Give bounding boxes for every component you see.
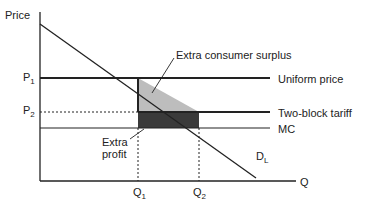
x-axis-label: Q bbox=[300, 176, 309, 188]
demand-curve bbox=[40, 24, 256, 178]
y-axis-label: Price bbox=[5, 9, 30, 21]
demand-label: DL bbox=[256, 150, 268, 164]
p1-label: P1 bbox=[23, 71, 35, 85]
extra-profit-label-line1: Extra bbox=[102, 136, 128, 148]
two-block-tariff-label: Two-block tariff bbox=[278, 107, 352, 119]
extra-consumer-surplus-label: Extra consumer surplus bbox=[176, 49, 292, 61]
uniform-price-label: Uniform price bbox=[278, 73, 343, 85]
p2-label: P2 bbox=[23, 104, 35, 118]
extra-profit-area bbox=[138, 112, 199, 128]
mc-label: MC bbox=[278, 123, 295, 135]
diagram-canvas bbox=[0, 0, 373, 212]
q2-label: Q2 bbox=[193, 186, 206, 200]
extra-profit-label-line2: profit bbox=[102, 148, 126, 160]
q1-label: Q1 bbox=[133, 186, 146, 200]
consumer-surplus-pointer bbox=[152, 58, 174, 93]
profit-pointer bbox=[130, 129, 144, 139]
extra-consumer-surplus-area bbox=[138, 78, 199, 112]
